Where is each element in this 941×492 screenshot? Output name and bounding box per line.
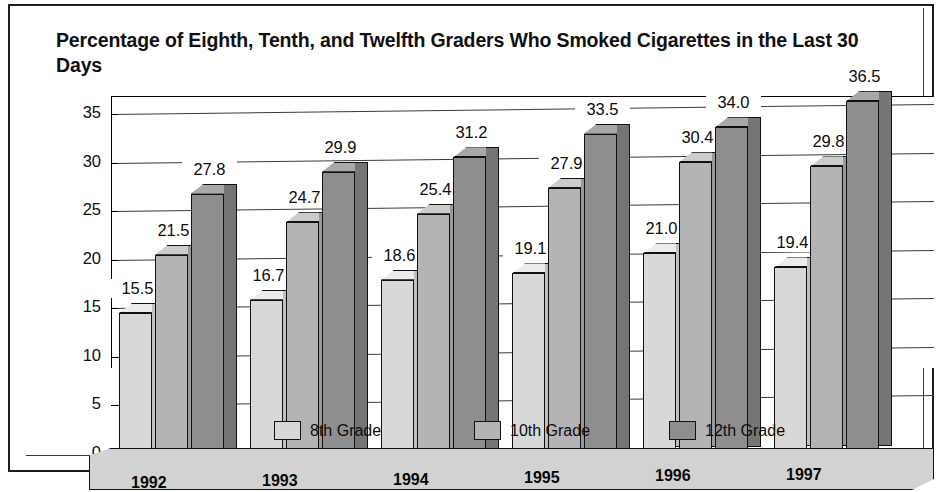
x-axis-label-1997: 1997: [786, 466, 822, 484]
legend-swatch: [669, 421, 696, 440]
plot-area: 05101520253035 15.521.527.816.724.729.91…: [89, 96, 934, 378]
bar-side-face: [355, 162, 368, 452]
y-tick-mark: [111, 114, 118, 115]
y-tick-mark: [111, 260, 118, 261]
legend-label: 10th Grade: [510, 422, 590, 440]
x-axis-label-1992: 1992: [131, 474, 167, 492]
bar: [453, 147, 486, 460]
chart-title: Percentage of Eighth, Tenth, and Twelfth…: [56, 28, 886, 79]
bar-side-face: [224, 184, 237, 454]
y-tick-mark: [111, 357, 118, 358]
y-tick-label: 30: [65, 152, 101, 171]
y-tick-mark: [111, 211, 118, 212]
bar-value-label: 36.5: [837, 67, 892, 86]
bar-side-face: [486, 147, 499, 450]
bar-side-face: [748, 117, 761, 447]
y-tick-mark: [111, 405, 118, 406]
bar-value-label: 31.2: [444, 123, 499, 142]
bar-side-face: [879, 91, 892, 446]
bar-front-face: [584, 134, 617, 459]
y-tick-label: 10: [65, 346, 101, 365]
bar-side-face: [617, 124, 630, 449]
y-tick-label: 20: [65, 249, 101, 268]
bar-front-face: [715, 127, 748, 457]
y-tick-label: 25: [65, 200, 101, 219]
bar-value-label: 29.9: [313, 138, 368, 157]
legend-swatch: [474, 421, 501, 440]
bar-value-label: 33.5: [575, 100, 630, 119]
x-axis-label-1993: 1993: [262, 472, 298, 490]
bar-value-label: 27.8: [182, 160, 237, 179]
chart-legend: 8th Grade10th Grade12th Grade: [89, 419, 934, 445]
x-axis-label-1995: 1995: [524, 469, 560, 487]
y-tick-label: 5: [65, 394, 101, 413]
bar-front-face: [846, 101, 879, 456]
bar-value-label: 34.0: [706, 93, 761, 112]
y-tick-label: 15: [65, 297, 101, 316]
bar-front-face: [679, 162, 712, 457]
chart-card: Percentage of Eighth, Tenth, and Twelfth…: [26, 8, 924, 456]
y-tick-mark: [111, 163, 118, 164]
legend-swatch: [274, 421, 301, 440]
x-axis-label-1996: 1996: [655, 467, 691, 485]
y-tick-label: 35: [65, 103, 101, 122]
bar-front-face: [453, 157, 486, 460]
bar: [810, 156, 843, 455]
legend-item: 10th Grade: [474, 421, 590, 440]
bar: [548, 178, 581, 459]
legend-item: 12th Grade: [669, 421, 785, 440]
y-tick-mark: [111, 308, 118, 309]
x-axis-label-1994: 1994: [393, 471, 429, 489]
bar: [715, 117, 748, 457]
legend-label: 8th Grade: [310, 422, 381, 440]
legend-item: 8th Grade: [274, 421, 381, 440]
bar: [846, 91, 879, 456]
bar-front-face: [810, 166, 843, 455]
bar: [322, 162, 355, 462]
legend-label: 12th Grade: [705, 422, 785, 440]
bar: [584, 124, 617, 459]
bar: [679, 152, 712, 457]
